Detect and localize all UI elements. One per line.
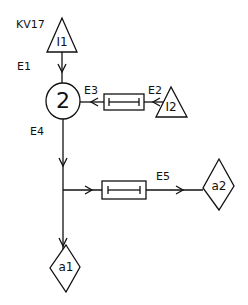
process-node-2[interactable]: 2 (46, 83, 80, 119)
input-triangle-i1[interactable]: I1 (47, 18, 77, 52)
output-diamond-a1[interactable]: a1 (50, 245, 80, 292)
edge-label-e4: E4 (30, 125, 44, 138)
output-diamond-a2[interactable]: a2 (203, 159, 234, 210)
edge-label-e3: E3 (84, 84, 98, 97)
diagram-canvas: KV17 E1 E3 E2 E4 E5 I1 2 I2 (0, 0, 248, 305)
element-box-1[interactable] (104, 94, 144, 110)
element-box-2[interactable] (102, 181, 146, 199)
edge-label-e5: E5 (156, 170, 170, 183)
output-a2-label: a2 (212, 179, 227, 193)
edge-label-e1: E1 (17, 60, 31, 73)
edge-label-e2: E2 (148, 84, 162, 97)
input-i2-label: I2 (165, 100, 176, 114)
title-label: KV17 (16, 18, 45, 31)
input-i1-label: I1 (56, 35, 67, 49)
output-a1-label: a1 (59, 260, 74, 274)
process-node-label: 2 (56, 88, 70, 113)
